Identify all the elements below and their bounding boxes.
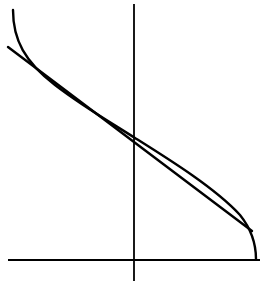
function-diagram	[0, 0, 262, 281]
approximation-line	[8, 47, 252, 231]
